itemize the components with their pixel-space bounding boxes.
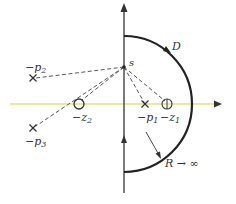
real-axis-arrow-icon [214, 101, 222, 108]
diagram-svg: s D −p2 −p3 −z2 −p1 −z1 R → ∞ [0, 0, 236, 204]
label-contour-d: D [171, 40, 181, 53]
point-s [122, 65, 126, 69]
label-z2: −z2 [72, 111, 92, 125]
s-plane-diagram: s D −p2 −p3 −z2 −p1 −z1 R → ∞ [0, 0, 236, 204]
label-p1: −p1 [137, 111, 158, 125]
label-s: s [129, 57, 134, 68]
label-radius: R → ∞ [164, 157, 199, 170]
label-p3: −p3 [25, 135, 46, 149]
contour-d-arrow-icon [163, 46, 171, 53]
radius-arrow-line [146, 132, 159, 155]
imaginary-axis-arrow-icon [121, 3, 128, 12]
label-z1: −z1 [160, 111, 180, 125]
label-p2: −p2 [25, 61, 46, 75]
contour-up-arrow-icon [121, 135, 127, 143]
pole-p2-icon [30, 75, 37, 82]
radius-arrow-head-icon [156, 152, 162, 160]
pole-p3-icon [30, 125, 37, 132]
